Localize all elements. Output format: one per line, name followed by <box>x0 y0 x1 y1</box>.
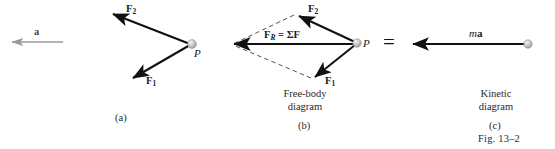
kinetic-diagram-caption-line-1: Kinetic <box>446 89 546 100</box>
fr-subscript: R <box>270 33 275 42</box>
kinetic-label-ma: ma <box>469 28 482 39</box>
f1-subscript-panel-b: 1 <box>331 79 335 88</box>
ma-acceleration-symbol: a <box>477 27 483 39</box>
resultant-label-fr: FR = ΣF <box>264 30 300 41</box>
force-label-f1-panel-a: F1 <box>146 76 156 87</box>
kinetic-diagram-caption-line-2: diagram <box>446 102 546 113</box>
f2-subscript-panel-a: 2 <box>132 7 136 16</box>
acceleration-label-a: a <box>34 27 39 38</box>
figure-vector-graphics <box>0 0 555 149</box>
fr-equation-tail: = ΣF <box>275 29 300 40</box>
force-vector-f2-panel-a <box>113 14 190 44</box>
force-vector-f2-panel-b <box>299 16 355 42</box>
free-body-diagram-caption-line-1: Free-body <box>255 89 355 100</box>
equals-sign: = <box>383 32 395 53</box>
panel-c-graphics <box>413 40 532 48</box>
force-label-f2-panel-a: F2 <box>126 4 136 15</box>
f1-subscript-panel-a: 1 <box>152 79 156 88</box>
panel-id-c: (c) <box>489 121 501 132</box>
point-label-p-panel-a: P <box>194 48 201 59</box>
panel-a-graphics <box>12 14 196 78</box>
figure-number-label: Fig. 13–2 <box>478 134 520 145</box>
particle-panel-c <box>524 40 532 48</box>
force-vector-f1-panel-b <box>315 45 355 77</box>
panel-b-graphics <box>233 15 361 78</box>
force-label-f2-panel-b: F2 <box>308 4 318 15</box>
force-vector-f1-panel-a <box>133 45 190 78</box>
figure-13-2: a F2 F1 P (a) F2 F1 FR = ΣF P Free-body … <box>0 0 555 149</box>
panel-id-a: (a) <box>115 113 127 124</box>
force-label-f1-panel-b: F1 <box>325 76 335 87</box>
construction-line-lower <box>233 45 311 78</box>
free-body-diagram-caption-line-2: diagram <box>255 102 355 113</box>
particle-p-panel-b <box>353 39 361 47</box>
panel-id-b: (b) <box>298 121 310 132</box>
f2-subscript-panel-b: 2 <box>314 7 318 16</box>
ma-mass-symbol: m <box>469 27 477 39</box>
point-label-p-panel-b: P <box>363 38 370 49</box>
